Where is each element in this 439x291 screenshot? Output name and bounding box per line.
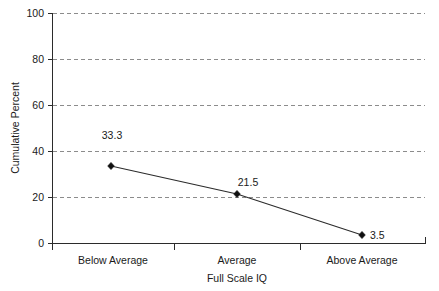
- data-point-marker-3: [359, 231, 366, 238]
- y-tick-marks: [48, 14, 53, 244]
- y-tick-label-40: 40: [32, 145, 44, 157]
- data-series-line: [111, 166, 362, 235]
- y-tick-label-60: 60: [32, 99, 44, 111]
- data-point-marker-1: [108, 162, 115, 169]
- x-category-label-below-average: Below Average: [78, 254, 148, 266]
- data-label-above-average: 3.5: [370, 229, 385, 241]
- x-category-label-average: Average: [218, 254, 257, 266]
- y-tick-label-20: 20: [32, 191, 44, 203]
- data-label-average: 21.5: [238, 176, 259, 188]
- x-category-label-above-average: Above Average: [326, 254, 397, 266]
- gridlines: [53, 14, 426, 198]
- y-tick-label-100: 100: [26, 7, 44, 19]
- y-tick-label-80: 80: [32, 53, 44, 65]
- data-point-marker-2: [234, 190, 241, 197]
- x-axis-title: Full Scale IQ: [207, 272, 267, 284]
- y-tick-label-0: 0: [38, 237, 44, 249]
- cumulative-percent-line-chart: 100 80 60 40 20 0 Cumulative Percent Bel…: [0, 0, 439, 291]
- y-axis-title: Cumulative Percent: [9, 82, 21, 174]
- chart-canvas: 100 80 60 40 20 0 Cumulative Percent Bel…: [0, 0, 439, 291]
- data-label-below-average: 33.3: [102, 129, 123, 141]
